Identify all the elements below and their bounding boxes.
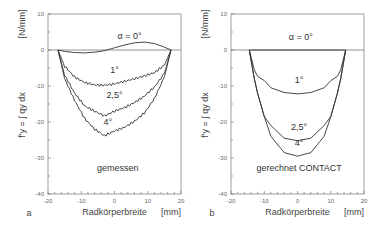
x-tick-label: 10 xyxy=(327,198,334,204)
x-axis-unit: [mm] xyxy=(344,207,364,217)
curve-label: 2,5° xyxy=(291,122,308,132)
chart-panel-b: -40-30-20-10010-20-1001020α = 0°1°2,5°4°… xyxy=(200,10,368,219)
y-tick-label: -10 xyxy=(218,83,227,89)
y-axis-label: f'y = ∫ qy dx xyxy=(200,92,210,138)
x-tick-label: -20 xyxy=(227,198,236,204)
y-tick-label: -30 xyxy=(218,155,227,161)
panel-caption: gemessen xyxy=(97,163,139,173)
x-axis-label: Radkörperbreite xyxy=(265,207,330,217)
x-tick-label: 10 xyxy=(144,198,151,204)
y-axis-unit: [N/mm] xyxy=(200,10,210,39)
x-tick-label: -20 xyxy=(44,198,53,204)
curve-label: 4° xyxy=(104,117,113,127)
series-line xyxy=(58,50,171,116)
curve-label: 1° xyxy=(295,75,304,85)
y-tick-label: -10 xyxy=(35,83,44,89)
x-tick-label: 0 xyxy=(296,198,300,204)
y-tick-label: 10 xyxy=(220,11,227,17)
panel-letter: a xyxy=(26,208,31,218)
series-line xyxy=(58,42,171,53)
x-axis-label: Radkörperbreite xyxy=(82,207,147,217)
x-tick-label: -10 xyxy=(260,198,269,204)
x-tick-label: 20 xyxy=(178,198,185,204)
y-tick-label: -20 xyxy=(35,119,44,125)
curve-label: α = 0° xyxy=(289,32,313,42)
y-tick-label: -20 xyxy=(218,119,227,125)
y-tick-label: -30 xyxy=(35,155,44,161)
y-axis-label: f'y = ∫ qy dx xyxy=(17,92,27,138)
curve-label: 1° xyxy=(110,65,119,75)
y-tick-label: 10 xyxy=(37,11,44,17)
x-axis-unit: [mm] xyxy=(161,207,181,217)
x-tick-label: 20 xyxy=(361,198,368,204)
panel-caption: gerechnet CONTACT xyxy=(256,163,342,173)
curve-label: 2,5° xyxy=(106,90,123,100)
chart-figure: -40-30-20-10010-20-1001020α = 0°1°2,5°4°… xyxy=(0,0,378,231)
y-tick-label: -40 xyxy=(218,191,227,197)
curve-label: α = 0° xyxy=(117,31,141,41)
curve-label: 4° xyxy=(295,138,304,148)
y-tick-label: 0 xyxy=(224,47,228,53)
series-line xyxy=(249,50,345,94)
y-tick-label: 0 xyxy=(41,47,45,53)
x-tick-label: 0 xyxy=(113,198,117,204)
y-axis-unit: [N/mm] xyxy=(17,10,27,39)
y-tick-label: -40 xyxy=(35,191,44,197)
chart-panel-a: -40-30-20-10010-20-1001020α = 0°1°2,5°4°… xyxy=(17,10,185,219)
x-tick-label: -10 xyxy=(77,198,86,204)
panel-letter: b xyxy=(209,208,214,218)
